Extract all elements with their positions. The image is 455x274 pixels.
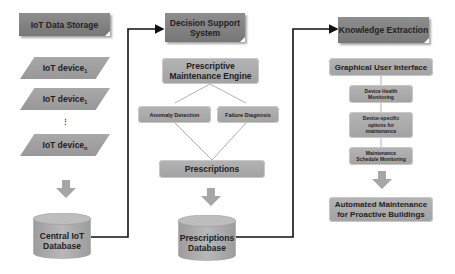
engine-line2: Maintenance Engine <box>169 71 251 81</box>
iot-data-storage-label: IoT Data Storage <box>31 20 99 30</box>
prescriptive-maintenance-engine: Prescriptive Maintenance Engine <box>162 58 259 84</box>
dss-header-line2: System <box>190 28 220 38</box>
result-line1: Automated Maintenance <box>335 200 427 210</box>
iot-device-label: IoT device1 <box>43 94 88 105</box>
decision-support-system-header: Decision Support System <box>165 13 245 42</box>
down-arrow-icon <box>56 180 76 198</box>
anomaly-detection-box: Anomaly Detection <box>138 106 211 123</box>
maintenance-schedule-monitoring-box: Maintenance Schedule Monitoring <box>349 147 413 165</box>
engine-line1: Prescriptive <box>186 61 235 71</box>
db-label-line2: Database <box>188 243 226 253</box>
step-line: Schedule Monitoring <box>356 156 405 162</box>
step-line: Monitoring <box>368 94 394 100</box>
db-label-line1: Prescriptions <box>180 233 234 243</box>
iot-device-1: IoT device1 <box>20 57 110 79</box>
prescriptions-box: Prescriptions <box>159 160 265 178</box>
central-iot-database: Central IoT Database <box>32 213 92 261</box>
down-arrow-icon <box>372 171 392 189</box>
result-line2: for Proactive Buildings <box>337 210 425 220</box>
db-label-line2: Database <box>43 241 81 251</box>
knowledge-extraction-label: Knowledge Extraction <box>339 25 428 35</box>
iot-device-2: IoT device1 <box>20 88 110 110</box>
device-health-monitoring-box: Device Health Monitoring <box>349 85 413 103</box>
ellipsis-vertical: ⋮ <box>55 113 75 131</box>
automated-maintenance-box: Automated Maintenance for Proactive Buil… <box>329 197 433 222</box>
gui-label: Graphical User Interface <box>335 63 427 72</box>
step-line: maintenance <box>366 128 397 135</box>
iot-device-n: IoT devicen <box>20 134 110 156</box>
failure-diagnosis-label: Failure Diagnosis <box>225 112 271 118</box>
failure-diagnosis-box: Failure Diagnosis <box>217 106 279 123</box>
prescriptions-label: Prescriptions <box>185 164 239 174</box>
down-arrow-icon <box>201 188 221 206</box>
device-specific-options-box: Device-specific options for maintenance <box>349 112 413 138</box>
knowledge-extraction-header: Knowledge Extraction <box>338 17 429 43</box>
prescriptions-database: Prescriptions Database <box>177 215 237 263</box>
dss-header-line1: Decision Support <box>170 18 240 28</box>
anomaly-detection-label: Anomaly Detection <box>150 112 200 118</box>
graphical-user-interface-box: Graphical User Interface <box>329 58 433 76</box>
iot-device-label: IoT devicen <box>43 140 88 151</box>
db-label-line1: Central IoT <box>40 231 84 241</box>
iot-device-label: IoT device1 <box>43 63 88 74</box>
iot-data-storage-header: IoT Data Storage <box>19 13 110 36</box>
